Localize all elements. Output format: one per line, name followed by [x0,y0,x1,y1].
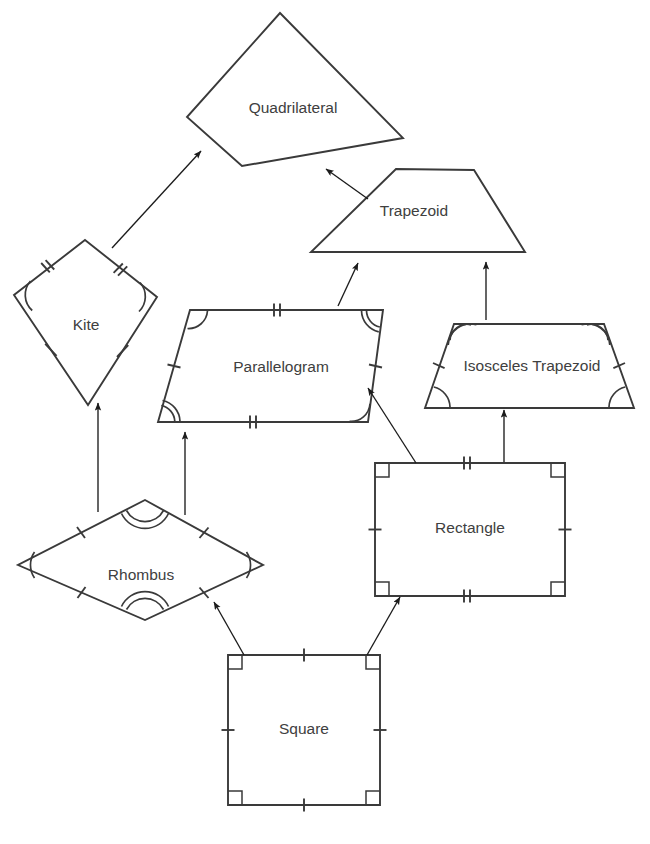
shape-rhombus[interactable]: Rhombus [18,500,263,620]
parallelogram-label: Parallelogram [233,358,329,375]
quadrilateral-label: Quadrilateral [249,99,338,116]
shape-parallelogram[interactable]: Parallelogram [158,304,383,429]
shape-quadrilateral[interactable]: Quadrilateral [187,13,403,166]
connector-kite-to-quadrilateral[interactable] [112,151,201,248]
connector-trapezoid-to-quadrilateral[interactable] [326,169,368,199]
diagram-canvas: Quadrilateral Kite [0,0,650,844]
kite-label: Kite [73,316,100,333]
shape-isosceles-trapezoid[interactable]: Isosceles Trapezoid [425,324,634,408]
connector-rectangle-to-parallelogram[interactable] [368,388,416,463]
trapezoid-label: Trapezoid [380,202,448,219]
connector-square-to-rhombus[interactable] [214,602,244,655]
rectangle-label: Rectangle [435,519,505,536]
shape-kite[interactable]: Kite [14,240,157,405]
rhombus-outline [18,500,263,620]
square-label: Square [279,720,329,737]
shape-rectangle[interactable]: Rectangle [369,457,572,603]
isosceles-trapezoid-label: Isosceles Trapezoid [464,357,601,374]
shape-square[interactable]: Square [222,649,387,812]
connector-parallelogram-to-trapezoid[interactable] [338,263,358,306]
quadrilateral-hierarchy-diagram: Quadrilateral Kite [0,0,650,844]
connector-square-to-rectangle[interactable] [367,597,400,655]
rhombus-label: Rhombus [108,566,175,583]
quadrilateral-outline [187,13,403,166]
